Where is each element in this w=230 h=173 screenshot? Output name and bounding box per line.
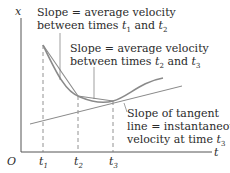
position-time-diagram: x t O t1 t2 t3 Slope = average velocity … <box>0 0 230 173</box>
svg-text:Slope = average velocity: Slope = average velocity <box>70 42 210 55</box>
annotation-instantaneous-velocity-t3: Slope of tangent line = instantaneous ve… <box>126 107 230 148</box>
tick-label-t2: t2 <box>74 155 83 170</box>
svg-text:Slope = average velocity: Slope = average velocity <box>37 6 177 19</box>
svg-text:Slope of tangent: Slope of tangent <box>127 107 220 120</box>
svg-text:between times t1 and t2: between times t1 and t2 <box>37 19 167 34</box>
annotation-avg-velocity-t2-t3: Slope = average velocity between times t… <box>70 42 210 70</box>
svg-text:between times t2 and t3: between times t2 and t3 <box>70 55 200 70</box>
origin-label: O <box>7 155 16 168</box>
svg-text:velocity at time t3: velocity at time t3 <box>126 133 225 148</box>
tick-label-t3: t3 <box>109 155 118 170</box>
annotation-avg-velocity-t1-t2: Slope = average velocity between times t… <box>37 6 177 34</box>
y-axis-label: x <box>15 5 22 18</box>
svg-text:line = instantaneous: line = instantaneous <box>127 120 230 133</box>
x-axis-label: t <box>214 146 219 159</box>
tick-label-t1: t1 <box>39 155 48 170</box>
